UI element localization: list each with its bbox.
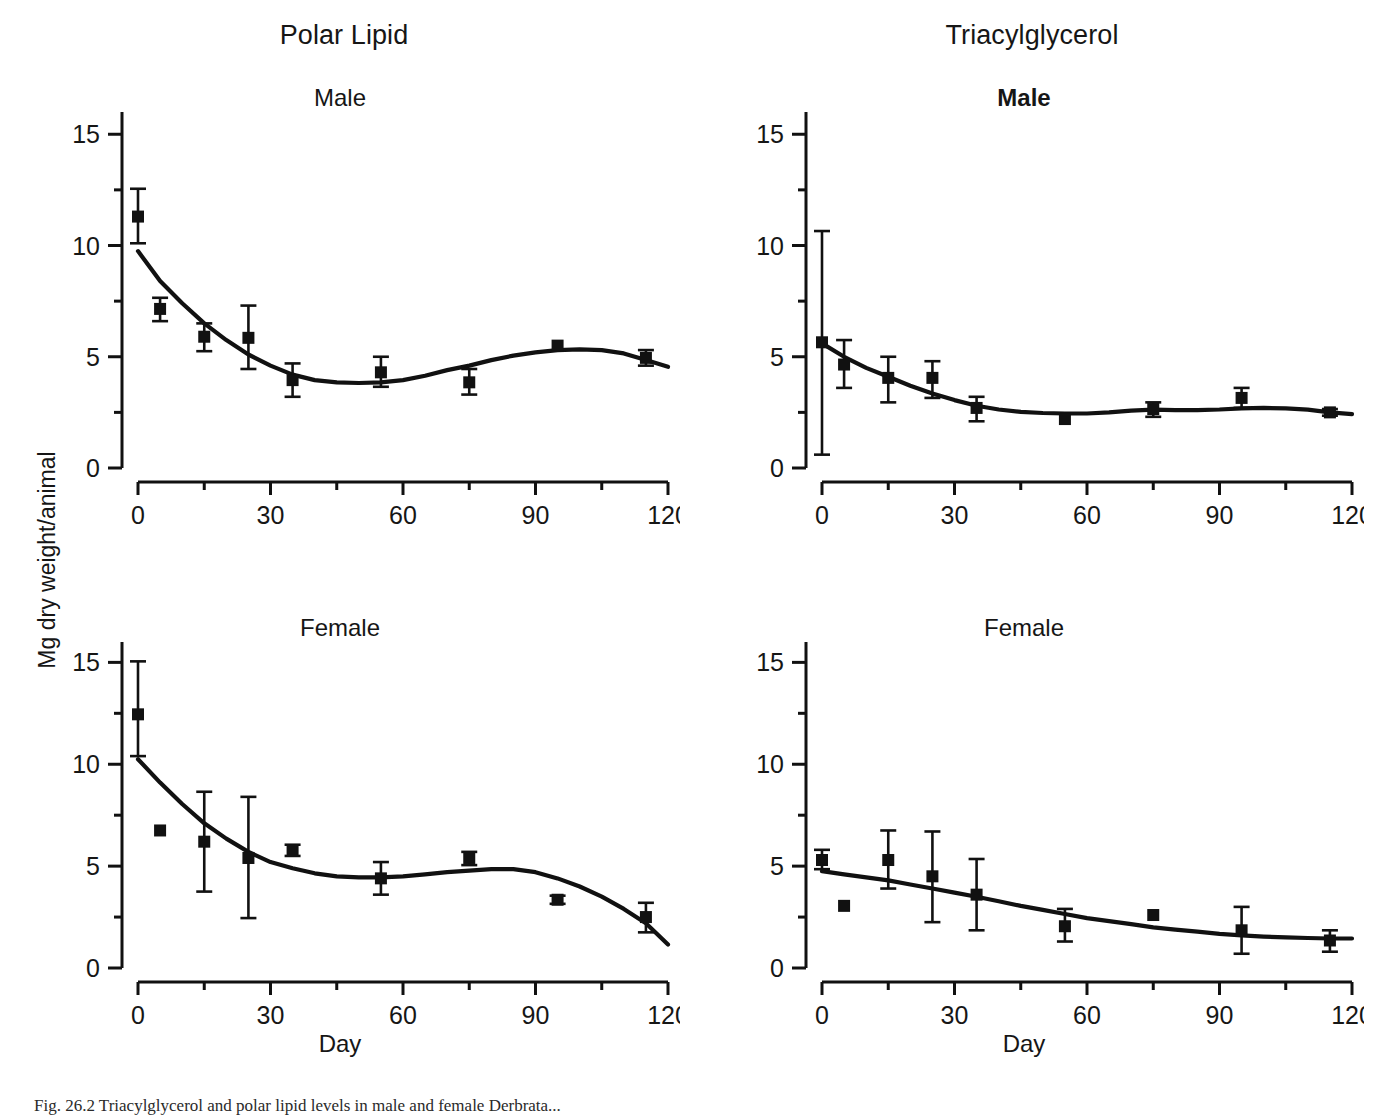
x-tick-label: 30 (257, 1001, 285, 1029)
x-tick-label: 60 (1073, 501, 1101, 529)
x-tick-label: 30 (941, 1001, 969, 1029)
data-point-marker (287, 374, 299, 386)
data-point-marker (926, 372, 938, 384)
data-point-marker (375, 872, 387, 884)
y-tick-label: 5 (86, 343, 100, 371)
y-tick-label: 15 (756, 120, 784, 148)
x-tick-label: 60 (389, 501, 417, 529)
panel-title: Female (60, 614, 620, 642)
data-point-marker (1147, 403, 1159, 415)
data-point-marker (816, 336, 828, 348)
data-point-marker (242, 332, 254, 344)
x-tick-label: 120 (1331, 1001, 1364, 1029)
data-point-marker (552, 340, 564, 352)
x-axis-label-left: Day (60, 1030, 620, 1058)
data-point-marker (1147, 909, 1159, 921)
x-tick-label: 0 (131, 1001, 145, 1029)
y-tick-label: 15 (72, 648, 100, 676)
panel-title: Male (60, 84, 620, 112)
fit-curve (138, 251, 668, 383)
y-tick-label: 10 (72, 750, 100, 778)
panel-polar-lipid-male: Male 0510150306090120 (60, 70, 680, 540)
data-point-marker (1236, 392, 1248, 404)
chart-polar-lipid-male: 0510150306090120 (60, 70, 680, 540)
data-point-marker (198, 836, 210, 848)
chart-triacylglycerol-female: 0510150306090120 (744, 600, 1364, 1040)
y-tick-label: 0 (770, 454, 784, 482)
chart-polar-lipid-female: 0510150306090120 (60, 600, 680, 1040)
data-point-marker (1324, 934, 1336, 946)
chart-triacylglycerol-male: 0510150306090120 (744, 70, 1364, 540)
y-tick-label: 10 (756, 232, 784, 260)
y-tick-label: 10 (72, 232, 100, 260)
data-point-marker (640, 911, 652, 923)
data-point-marker (882, 854, 894, 866)
data-point-marker (463, 852, 475, 864)
data-point-marker (154, 303, 166, 315)
data-point-marker (640, 352, 652, 364)
y-axis-label: Mg dry weight/animal (34, 410, 61, 710)
data-point-marker (154, 824, 166, 836)
data-point-marker (375, 366, 387, 378)
data-point-marker (552, 894, 564, 906)
data-point-marker (463, 376, 475, 388)
panel-title: Female (744, 614, 1304, 642)
x-tick-label: 0 (815, 1001, 829, 1029)
x-axis-label-right: Day (744, 1030, 1304, 1058)
x-tick-label: 120 (647, 1001, 680, 1029)
data-point-marker (242, 852, 254, 864)
x-tick-label: 30 (941, 501, 969, 529)
y-tick-label: 10 (756, 750, 784, 778)
y-tick-label: 15 (756, 648, 784, 676)
y-tick-label: 0 (770, 954, 784, 982)
data-point-marker (198, 331, 210, 343)
x-tick-label: 0 (131, 501, 145, 529)
data-point-marker (838, 900, 850, 912)
x-tick-label: 120 (647, 501, 680, 529)
data-point-marker (971, 402, 983, 414)
x-tick-label: 90 (1206, 501, 1234, 529)
data-point-marker (971, 889, 983, 901)
x-tick-label: 0 (815, 501, 829, 529)
y-tick-label: 0 (86, 454, 100, 482)
x-tick-label: 90 (522, 501, 550, 529)
x-tick-label: 120 (1331, 501, 1364, 529)
figure-caption: Fig. 26.2 Triacylglycerol and polar lipi… (34, 1096, 1354, 1116)
data-point-marker (132, 211, 144, 223)
data-point-marker (1059, 920, 1071, 932)
x-tick-label: 90 (522, 1001, 550, 1029)
x-tick-label: 90 (1206, 1001, 1234, 1029)
fit-curve (138, 759, 668, 944)
data-point-marker (1059, 413, 1071, 425)
data-point-marker (287, 845, 299, 857)
data-point-marker (1236, 924, 1248, 936)
data-point-marker (1324, 406, 1336, 418)
x-tick-label: 60 (389, 1001, 417, 1029)
panel-title: Male (744, 84, 1304, 112)
x-tick-label: 60 (1073, 1001, 1101, 1029)
data-point-marker (882, 372, 894, 384)
fit-curve (822, 871, 1352, 938)
column-title-polar-lipid: Polar Lipid (0, 20, 688, 51)
panel-polar-lipid-female: Female 0510150306090120 (60, 600, 680, 1040)
column-title-triacylglycerol: Triacylglycerol (688, 20, 1376, 51)
fit-curve (822, 343, 1352, 414)
x-tick-label: 30 (257, 501, 285, 529)
y-tick-label: 5 (770, 852, 784, 880)
y-tick-label: 5 (770, 343, 784, 371)
panel-triacylglycerol-female: Female 0510150306090120 (744, 600, 1364, 1040)
y-tick-label: 5 (86, 852, 100, 880)
data-point-marker (816, 854, 828, 866)
figure-root: Polar Lipid Triacylglycerol Mg dry weigh… (0, 0, 1376, 1116)
y-tick-label: 0 (86, 954, 100, 982)
data-point-marker (838, 359, 850, 371)
y-tick-label: 15 (72, 120, 100, 148)
panel-triacylglycerol-male: Male 0510150306090120 (744, 70, 1364, 540)
data-point-marker (926, 870, 938, 882)
data-point-marker (132, 708, 144, 720)
